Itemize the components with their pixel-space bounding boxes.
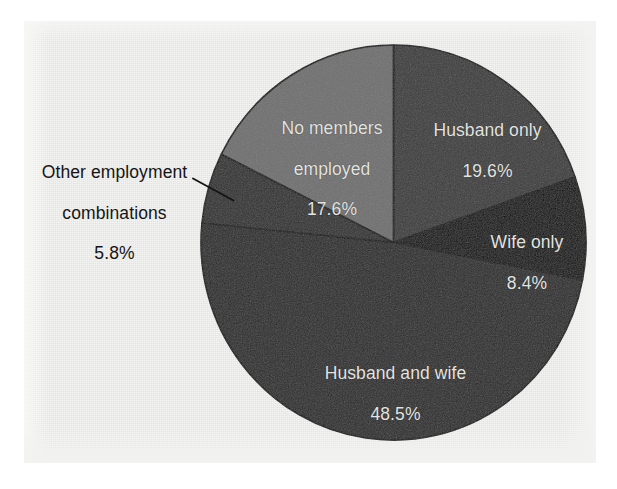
slice-label-other-employment-percent: 5.8%: [22, 243, 207, 263]
slice-label-other-employment-combinations: Other employment combinations 5.8%: [22, 142, 207, 284]
slice-label-husband-only: Husband only 19.6%: [400, 100, 575, 201]
slice-label-husband-and-wife-percent: 48.5%: [283, 404, 508, 424]
slice-label-husband-and-wife-text: Husband and wife: [283, 363, 508, 383]
slice-label-wife-only-text: Wife only: [452, 232, 602, 252]
slice-label-husband-and-wife: Husband and wife 48.5%: [283, 343, 508, 444]
slice-label-wife-only: Wife only 8.4%: [452, 212, 602, 313]
slice-label-wife-only-percent: 8.4%: [452, 273, 602, 293]
slice-label-no-members-employed-line2: employed: [256, 159, 408, 179]
slice-label-husband-only-percent: 19.6%: [400, 161, 575, 181]
slice-label-no-members-employed-line1: No members: [256, 118, 408, 138]
slice-label-other-employment-line2: combinations: [22, 203, 207, 223]
slice-label-no-members-employed: No members employed 17.6%: [256, 98, 408, 240]
pie-chart-figure: Husband only 19.6% Wife only 8.4% Husban…: [0, 0, 617, 489]
slice-label-no-members-employed-percent: 17.6%: [256, 199, 408, 219]
slice-label-other-employment-line1: Other employment: [22, 162, 207, 182]
slice-label-husband-only-text: Husband only: [400, 120, 575, 140]
